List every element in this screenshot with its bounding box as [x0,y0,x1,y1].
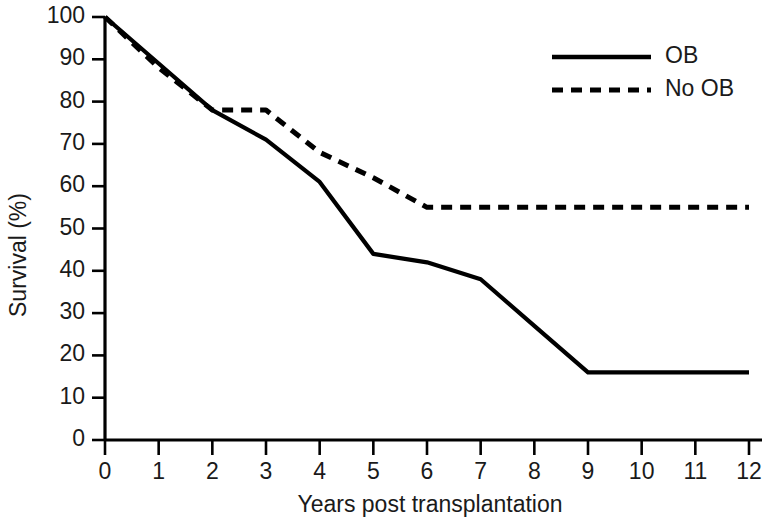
x-tick-label: 7 [474,458,487,484]
y-tick-label: 90 [59,44,85,70]
y-tick-label: 40 [59,256,85,282]
x-tick-label: 8 [528,458,541,484]
axis-lines [104,17,762,440]
x-tick-label: 9 [582,458,595,484]
x-tick-label: 11 [683,458,707,484]
x-tick-label: 1 [152,458,165,484]
y-tick-label: 20 [59,340,85,366]
legend-label-no-ob: No OB [665,75,734,101]
y-tick-label: 50 [59,214,85,240]
y-tick-label: 0 [72,425,85,451]
y-tick-label: 10 [59,383,85,409]
chart-canvas: 0102030405060708090100 0123456789101112 … [0,0,776,521]
x-axis-title: Years post transplantation [297,491,562,517]
legend-label-ob: OB [665,42,698,68]
data-series-group [105,17,749,372]
x-tick-label: 0 [99,458,112,484]
series-line-ob [105,17,749,372]
y-axis-title: Survival (%) [5,193,31,317]
x-tick-label: 4 [313,458,326,484]
x-tick-label: 2 [206,458,219,484]
y-tick-label: 100 [47,2,85,28]
y-tick-label: 30 [59,298,85,324]
legend-entry-ob: OB [552,42,698,68]
x-tick-label: 12 [736,458,762,484]
series-line-no-ob [105,17,749,207]
y-tick-label: 80 [59,87,85,113]
survival-chart-figure: 0102030405060708090100 0123456789101112 … [0,0,776,521]
x-tick-label: 6 [421,458,434,484]
x-tick-label: 3 [260,458,273,484]
x-tick-label: 10 [629,458,655,484]
y-axis-tick-labels: 0102030405060708090100 [47,2,85,451]
chart-legend: OB No OB [552,42,734,101]
x-axis-tick-labels: 0123456789101112 [99,458,762,484]
y-tick-label: 70 [59,129,85,155]
x-tick-label: 5 [367,458,380,484]
legend-entry-no-ob: No OB [552,75,734,101]
x-axis-ticks [105,440,749,455]
y-tick-label: 60 [59,171,85,197]
y-axis-ticks [92,17,105,440]
